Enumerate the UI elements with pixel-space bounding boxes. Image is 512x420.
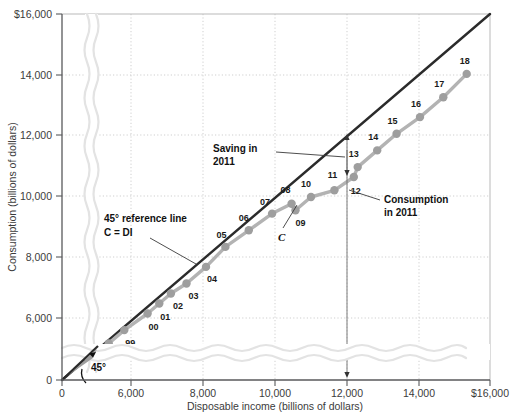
y-axis-ticks	[56, 14, 62, 380]
year-label-07: 07	[260, 197, 270, 207]
year-label-00: 00	[149, 322, 159, 332]
x-tick-label: 12,000	[331, 387, 363, 399]
year-label-04: 04	[207, 274, 217, 284]
y-tick-label: 10,000	[20, 190, 52, 202]
saving-label-line1: Saving in	[213, 143, 257, 154]
x-tick-label: $16,000	[471, 387, 509, 399]
year-label-03: 03	[188, 291, 198, 301]
year-label-08: 08	[281, 185, 291, 195]
data-point-11	[330, 186, 338, 194]
x-tick-label: 6,000	[118, 387, 144, 399]
data-point-04	[202, 263, 210, 271]
data-point-02	[167, 289, 175, 297]
data-point-99	[120, 326, 128, 334]
data-point-03	[182, 279, 190, 287]
y-tick-label: 0	[46, 374, 52, 386]
x-tick-label: 0	[59, 387, 65, 399]
year-label-15: 15	[388, 116, 398, 126]
y-tick-label: 8,000	[26, 251, 52, 263]
year-label-18: 18	[460, 56, 470, 66]
consumption-label-line1: Consumption	[384, 194, 448, 205]
angle-45-label: 45°	[91, 362, 106, 373]
ref-label-line1: 45° reference line	[104, 213, 187, 224]
year-label-17: 17	[434, 79, 444, 89]
data-point-07	[268, 209, 276, 217]
x-axis-break	[62, 344, 490, 361]
x-tick-label: 14,000	[403, 387, 435, 399]
y-axis-break	[85, 14, 99, 380]
y-tick-label: 12,000	[20, 129, 52, 141]
chart-figure: 9899000102030405060708091011121314151617…	[0, 0, 512, 420]
year-label-16: 16	[411, 99, 421, 109]
data-point-17	[439, 93, 447, 101]
x-axis-ticks	[62, 380, 490, 386]
data-point-00	[143, 309, 151, 317]
year-label-01: 01	[160, 312, 170, 322]
year-label-14: 14	[368, 132, 378, 142]
data-point-10	[307, 193, 315, 201]
data-point-05	[221, 243, 229, 251]
year-label-11: 11	[328, 170, 338, 180]
ref-label-line2: C = DI	[104, 227, 133, 238]
consumption-disposable-income-chart: 9899000102030405060708091011121314151617…	[0, 0, 512, 420]
x-axis-title: Disposable income (billions of dollars)	[187, 400, 363, 412]
data-point-15	[392, 130, 400, 138]
x-axis-tick-labels: 06,0008,00010,00012,00014,000$16,000	[59, 387, 509, 399]
year-label-06: 06	[239, 213, 249, 223]
y-axis-tick-labels: $16,00014,00012,00010,0008,0006,0000	[14, 8, 52, 386]
saving-label-line2: 2011	[213, 156, 235, 167]
y-tick-label: 6,000	[26, 312, 52, 324]
y-tick-label: $16,000	[14, 8, 52, 20]
y-tick-label: 14,000	[20, 69, 52, 81]
data-point-12	[350, 173, 358, 181]
x-tick-label: 8,000	[190, 387, 216, 399]
year-label-13: 13	[349, 149, 359, 159]
y-axis-title: Consumption (billions of dollars)	[6, 122, 18, 271]
year-label-10: 10	[301, 179, 311, 189]
x-tick-label: 10,000	[259, 387, 291, 399]
year-label-09: 09	[295, 218, 305, 228]
data-point-06	[245, 226, 253, 234]
data-point-18	[463, 70, 471, 78]
year-label-02: 02	[173, 301, 183, 311]
data-point-14	[373, 146, 381, 154]
data-point-01	[155, 299, 163, 307]
year-label-05: 05	[216, 230, 226, 240]
consumption-label-line2: in 2011	[384, 207, 418, 218]
c-label: C	[278, 231, 286, 243]
data-point-16	[416, 113, 424, 121]
data-point-13	[354, 163, 362, 171]
